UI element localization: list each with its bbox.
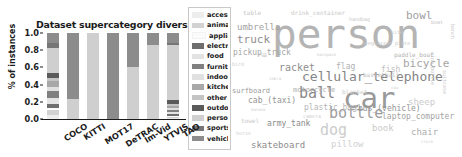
legend-item-label: kitchen	[207, 83, 228, 91]
bar-segment-sports	[47, 43, 58, 47]
legend-item-label: other	[207, 94, 227, 102]
cloud-word-drink_container: drink_container	[291, 10, 345, 16]
legend-item-label: accessory	[207, 11, 228, 19]
legend-item-kitchen[interactable]: kitchen	[191, 82, 228, 92]
word-cloud-panel: personcarcellular_telephonebottleballdog…	[231, 0, 462, 157]
cloud-word-boat: boat	[431, 20, 443, 25]
legend-swatch-icon	[192, 74, 204, 80]
legend-item-label: appliance	[209, 32, 228, 40]
bar-segment-person	[147, 45, 158, 119]
legend-swatch-icon	[192, 12, 204, 18]
legend-item-label: food	[207, 52, 224, 60]
bar-segment-person	[127, 67, 138, 119]
bar-segment-furniture	[47, 91, 58, 98]
cloud-word-suitcase: suitcase	[442, 70, 447, 94]
cloud-word-bird: bird	[232, 62, 244, 67]
legend-item-appliance[interactable]: appliance	[191, 31, 228, 41]
cloud-word-cab_(taxi): cab_(taxi)	[248, 97, 296, 105]
bar-segment-person	[167, 45, 178, 100]
bar-segment-animal	[47, 110, 58, 115]
cloud-word-table: table	[243, 10, 261, 16]
bar-segment-indoor	[47, 87, 58, 90]
bar-segment-food	[167, 112, 178, 114]
legend-item-furniture[interactable]: furniture	[191, 61, 228, 71]
cloud-word-pillow: pillow	[331, 140, 364, 149]
cloud-word-cup: cup	[258, 52, 267, 57]
bar-segment-kitchen	[47, 81, 58, 87]
legend-item-electronic[interactable]: electronic	[191, 41, 228, 51]
legend-swatch-icon	[192, 115, 204, 121]
legend-item-outdoor[interactable]: outdoor	[191, 103, 228, 113]
bar-segment-person	[87, 33, 98, 119]
bar-segment-appliance	[47, 108, 58, 110]
cloud-word-camera: camera	[303, 114, 321, 119]
bar-segment-vehicle	[167, 33, 178, 43]
bar-segment-electronic	[167, 114, 178, 116]
bar-mot17	[87, 33, 98, 119]
bar-segment-animal	[167, 116, 178, 118]
cloud-word-dog: dog	[320, 123, 347, 138]
legend-item-indoor[interactable]: indoor	[191, 72, 228, 82]
cloud-word-chair: chair	[411, 128, 438, 137]
bar-segment-furniture	[167, 110, 178, 113]
cloud-word-plastic_bag: plastic_bag	[304, 104, 357, 112]
cloud-word-backpack: backpack	[317, 53, 336, 57]
cloud-word-bowl: bowl	[406, 10, 433, 21]
bar-segment-sports	[167, 43, 178, 45]
cloud-word-racket: racket	[279, 63, 315, 73]
bar-segment-other	[47, 78, 58, 81]
x-axis-line	[41, 119, 186, 120]
y-tick-label: 0.0	[24, 114, 39, 124]
cloud-word-basketball: basketball	[363, 72, 399, 78]
legend-item-other[interactable]: other	[191, 92, 228, 102]
bar-segment-appliance	[167, 116, 178, 117]
bar-im-vid	[127, 33, 138, 119]
y-axis-label: % of instances	[8, 22, 17, 92]
cloud-word-eyeglasses_plate: eyeglasses_plate	[362, 41, 410, 46]
legend-item-label: person	[207, 114, 228, 122]
cloud-word-motorcycle: motorcycle	[293, 87, 335, 94]
y-tick-mark	[40, 50, 43, 51]
y-tick-label: 0.6	[24, 62, 39, 72]
cloud-word-kite: kite	[391, 30, 403, 35]
bar-kitti	[67, 33, 78, 119]
y-tick-mark	[40, 101, 43, 102]
legend-swatch-icon	[192, 64, 204, 70]
y-tick-label: 1.0	[24, 28, 39, 38]
y-tick-mark	[40, 67, 43, 68]
legend-item-accessory[interactable]: accessory	[191, 10, 228, 20]
y-tick-mark	[40, 84, 43, 85]
legend-swatch-icon	[192, 54, 204, 60]
y-tick-label: 0.4	[24, 80, 39, 90]
bar-segment-other	[167, 104, 178, 106]
legend-swatch-icon	[192, 105, 204, 111]
bar-coco	[47, 33, 58, 119]
cloud-word-towel: towel	[241, 118, 259, 124]
legend-item-label: outdoor	[207, 104, 228, 112]
bar-segment-outdoor	[47, 73, 58, 78]
bar-segment-person	[47, 48, 58, 73]
bar-detrac	[107, 33, 118, 119]
legend-item-label: electronic	[207, 42, 228, 50]
legend-item-vehicle[interactable]: vehicle	[191, 134, 228, 144]
y-tick-label: 0.2	[24, 97, 39, 107]
legend-swatch-icon	[192, 43, 204, 49]
legend-item-label: animal	[207, 21, 228, 29]
bar-segment-vehicle	[127, 33, 138, 67]
legend-swatch-icon	[192, 23, 204, 29]
cloud-word-umbrella: umbrella	[237, 23, 280, 32]
cloud-word-wine_bottle: wine_bottle	[430, 52, 435, 85]
y-tick-mark	[40, 33, 43, 34]
cloud-word-sheep: sheep	[408, 98, 435, 107]
legend-item-animal[interactable]: animal	[191, 20, 228, 30]
bar-chart-panel: Dataset supercategory diversity % of ins…	[0, 0, 231, 157]
bar-segment-vehicle	[147, 33, 158, 45]
legend-item-label: vehicle	[207, 135, 228, 143]
bar-segment-food	[47, 98, 58, 104]
cloud-word-bicycle: bicycle	[403, 58, 449, 69]
bar-segment-electronic	[47, 104, 58, 108]
chart-title: Dataset supercategory diversity	[36, 19, 188, 30]
bar-segment-vehicle	[47, 33, 58, 43]
legend-item-food[interactable]: food	[191, 51, 228, 61]
legend-swatch-icon	[192, 95, 204, 101]
